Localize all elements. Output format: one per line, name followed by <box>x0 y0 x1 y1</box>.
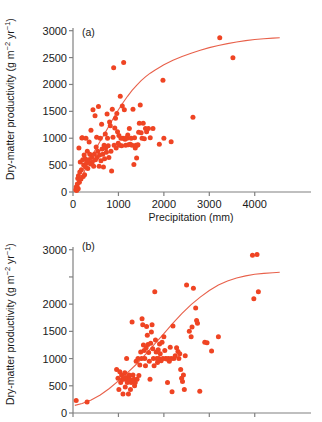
data-point <box>136 373 141 378</box>
data-point <box>178 367 183 372</box>
panel-a-label: (a) <box>82 26 95 38</box>
data-point <box>187 329 192 334</box>
data-point <box>131 162 136 167</box>
chart-panel-b: Dry-matter productivity (g m−2 yr−1) 050… <box>0 225 322 422</box>
data-point <box>205 340 210 345</box>
data-point <box>148 341 153 346</box>
figure-container: Dry-matter productivity (g m−2 yr−1) 050… <box>0 0 322 422</box>
data-point <box>150 126 155 131</box>
data-point <box>180 379 185 384</box>
panel-a-svg: Dry-matter productivity (g m−2 yr−1) 050… <box>0 0 322 225</box>
data-point <box>102 156 107 161</box>
y-tick-label: 2500 <box>43 52 67 64</box>
y-tick-label: 500 <box>49 159 67 171</box>
data-point <box>255 252 260 257</box>
data-point <box>157 142 162 147</box>
panel-a-plot-area: 0500100015002000250030000100020003000400… <box>43 25 311 210</box>
data-point <box>134 156 139 161</box>
data-point <box>124 356 129 361</box>
data-point <box>141 121 146 126</box>
data-point <box>256 289 261 294</box>
data-point <box>139 130 144 135</box>
data-point <box>110 135 115 140</box>
data-point <box>148 135 153 140</box>
data-point <box>110 107 115 112</box>
y-tick-label: 0 <box>61 407 67 419</box>
y-tick-label: 1000 <box>43 353 67 365</box>
x-tick-label: 1000 <box>106 198 130 210</box>
panel-a-ylabel: Dry-matter productivity (g m−2 yr−1) <box>3 18 16 180</box>
data-point <box>152 289 157 294</box>
data-point <box>190 325 195 330</box>
data-point <box>105 136 110 141</box>
data-point <box>193 305 198 310</box>
data-point <box>209 348 214 353</box>
panel-b-ylabel: Dry-matter productivity (g m−2 yr−1) <box>3 243 16 405</box>
svg-text:Dry-matter productivity (g m−2: Dry-matter productivity (g m−2 yr−1) <box>3 243 16 405</box>
data-point <box>142 356 147 361</box>
y-tick-label: 2000 <box>43 78 67 90</box>
data-point <box>85 166 90 171</box>
data-point <box>126 391 131 396</box>
panel-a-xaxis-title: Precipitation (mm) <box>148 211 233 223</box>
scatter-points <box>73 35 235 193</box>
y-tick-label: 0 <box>61 186 67 198</box>
data-point <box>132 135 137 140</box>
scatter-points <box>74 252 261 404</box>
data-point <box>137 363 142 368</box>
data-point <box>138 102 143 107</box>
data-point <box>190 115 195 120</box>
data-point <box>108 123 113 128</box>
data-point <box>165 380 170 385</box>
panel-b-label: (b) <box>82 240 95 252</box>
data-point <box>142 136 147 141</box>
y-tick-label: 3000 <box>43 244 67 256</box>
data-point <box>158 351 163 356</box>
data-point <box>118 94 123 99</box>
data-point <box>127 126 132 131</box>
data-point <box>161 136 166 141</box>
data-point <box>217 35 222 40</box>
x-tick-label: 3000 <box>197 198 221 210</box>
data-point <box>74 398 79 403</box>
data-point <box>116 387 121 392</box>
data-point <box>123 384 128 389</box>
data-point <box>85 400 90 405</box>
data-point <box>182 387 187 392</box>
data-point <box>99 122 104 127</box>
data-point <box>76 145 81 150</box>
data-point <box>104 150 109 155</box>
data-point <box>143 363 148 368</box>
data-point <box>145 333 150 338</box>
data-point <box>170 389 175 394</box>
data-point <box>87 139 92 144</box>
data-point <box>121 60 126 65</box>
data-point <box>106 143 111 148</box>
data-point <box>98 136 103 141</box>
data-point <box>97 164 102 169</box>
x-tick-label: 2000 <box>152 198 176 210</box>
data-point <box>103 131 108 136</box>
data-point <box>146 126 151 131</box>
data-point <box>160 340 165 345</box>
data-point <box>130 372 135 377</box>
data-point <box>111 65 116 70</box>
data-point <box>160 78 165 83</box>
fitted-curve <box>75 272 280 405</box>
data-point <box>148 377 153 382</box>
panel-b-svg: Dry-matter productivity (g m−2 yr−1) 050… <box>0 225 322 422</box>
data-point <box>195 321 200 326</box>
data-point <box>189 334 194 339</box>
y-tick-label: 500 <box>49 380 67 392</box>
y-tick-label: 1500 <box>43 105 67 117</box>
y-tick-label: 1000 <box>43 132 67 144</box>
data-point <box>91 164 96 169</box>
data-point <box>169 139 174 144</box>
data-point <box>177 351 182 356</box>
data-point <box>161 334 166 339</box>
data-point <box>150 322 155 327</box>
data-point <box>79 167 84 172</box>
data-point <box>106 155 111 160</box>
data-point <box>130 320 135 325</box>
data-point <box>114 111 119 116</box>
